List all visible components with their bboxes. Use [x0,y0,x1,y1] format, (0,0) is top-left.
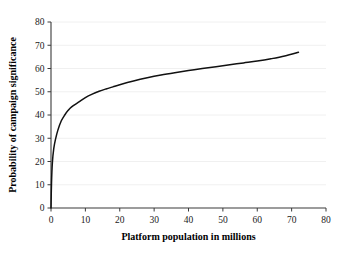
chart-canvas: 01020304050607080 01020304050607080 Plat… [0,0,344,267]
y-tick-label: 20 [35,157,45,167]
y-axis-title: Probability of campaign significance [7,37,18,193]
x-tick-label: 0 [49,215,54,225]
y-tick-label: 0 [40,203,45,213]
x-axis-ticks: 01020304050607080 [49,208,331,225]
gridlines [51,22,326,185]
y-axis-ticks: 01020304050607080 [35,17,51,213]
x-tick-label: 70 [287,215,297,225]
x-tick-label: 20 [115,215,125,225]
x-axis-title: Platform population in millions [121,231,255,242]
y-tick-label: 10 [35,180,45,190]
y-tick-label: 30 [35,134,45,144]
x-tick-label: 40 [184,215,194,225]
y-tick-label: 60 [35,64,45,74]
y-tick-label: 50 [35,87,45,97]
x-tick-label: 10 [81,215,91,225]
y-tick-label: 70 [35,41,45,51]
x-tick-label: 60 [253,215,263,225]
y-tick-label: 80 [35,17,45,27]
y-tick-label: 40 [35,110,45,120]
chart-figure: 01020304050607080 01020304050607080 Plat… [0,0,344,267]
x-tick-label: 80 [321,215,331,225]
x-tick-label: 50 [218,215,228,225]
x-tick-label: 30 [149,215,159,225]
